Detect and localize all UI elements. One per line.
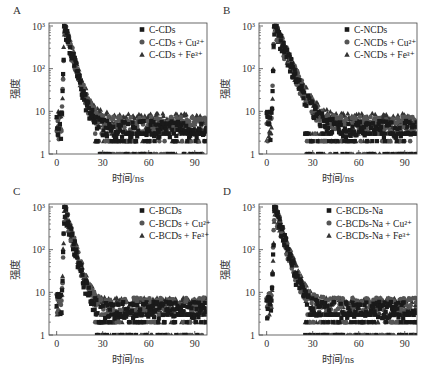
legend-entry: C-BCDs-Na bbox=[336, 206, 384, 216]
legend-entry: C-CDs + Fe³⁺ bbox=[149, 50, 203, 60]
y-axis-label: 强度 bbox=[9, 259, 21, 280]
x-tick-label: 0 bbox=[264, 157, 269, 168]
plot-d: D11010²10³0306090时间/ns强度C-BCDs-NaC-BCDs-… bbox=[210, 181, 424, 366]
y-axis-label: 强度 bbox=[219, 78, 231, 99]
y-tick-label: 1 bbox=[250, 330, 255, 341]
legend: C-BCDs-NaC-BCDs-Na + Cu²⁺C-BCDs-Na + Fe³… bbox=[326, 206, 412, 241]
y-tick-label: 10³ bbox=[32, 202, 45, 213]
panel-c: C11010²10³0306090时间/ns强度C-BCDsC-BCDs + C… bbox=[0, 181, 214, 366]
legend: C-CDsC-CDs + Cu²⁺C-CDs + Fe³⁺ bbox=[139, 25, 204, 60]
legend-entry: C-BCDs + Cu²⁺ bbox=[149, 219, 211, 229]
panel-letter: B bbox=[223, 4, 230, 16]
x-tick-label: 30 bbox=[98, 338, 108, 349]
x-tick-label: 60 bbox=[354, 157, 364, 168]
y-tick-label: 10² bbox=[242, 63, 255, 74]
y-tick-label: 10² bbox=[32, 244, 45, 255]
panel-b: B11010²10³0306090时间/ns强度C-NCDsC-NCDs + C… bbox=[210, 0, 424, 185]
plot-c: C11010²10³0306090时间/ns强度C-BCDsC-BCDs + C… bbox=[0, 181, 214, 366]
y-tick-label: 10 bbox=[245, 106, 255, 117]
x-tick-label: 30 bbox=[308, 338, 318, 349]
y-tick-label: 10³ bbox=[32, 21, 45, 32]
y-tick-label: 10³ bbox=[242, 202, 255, 213]
legend-entry: C-NCDs + Fe³⁺ bbox=[354, 50, 415, 60]
legend-entry: C-BCDs-Na + Fe³⁺ bbox=[336, 231, 410, 241]
plot-a: A11010²10³0306090时间/ns强度C-CDsC-CDs + Cu²… bbox=[0, 0, 214, 185]
y-tick-label: 1 bbox=[250, 149, 255, 160]
panel-letter: D bbox=[223, 185, 231, 197]
x-tick-label: 60 bbox=[144, 338, 154, 349]
legend-entry: C-NCDs + Cu²⁺ bbox=[354, 38, 416, 48]
legend-entry: C-BCDs bbox=[149, 206, 182, 216]
legend: C-BCDsC-BCDs + Cu²⁺C-BCDs + Fe³⁺ bbox=[139, 206, 211, 241]
x-tick-label: 60 bbox=[354, 338, 364, 349]
y-tick-label: 1 bbox=[40, 149, 45, 160]
y-axis-label: 强度 bbox=[219, 259, 231, 280]
x-tick-label: 90 bbox=[400, 338, 410, 349]
x-tick-label: 0 bbox=[54, 338, 59, 349]
y-tick-label: 10 bbox=[245, 287, 255, 298]
legend-entry: C-CDs + Cu²⁺ bbox=[149, 38, 204, 48]
panel-letter: C bbox=[13, 185, 20, 197]
y-tick-label: 10³ bbox=[242, 21, 255, 32]
y-tick-label: 10² bbox=[242, 244, 255, 255]
x-tick-label: 0 bbox=[264, 338, 269, 349]
panel-d: D11010²10³0306090时间/ns强度C-BCDs-NaC-BCDs-… bbox=[210, 181, 424, 366]
plot-b: B11010²10³0306090时间/ns强度C-NCDsC-NCDs + C… bbox=[210, 0, 424, 185]
x-axis-label: 时间/ns bbox=[112, 353, 144, 365]
y-tick-label: 1 bbox=[40, 330, 45, 341]
y-tick-label: 10² bbox=[32, 63, 45, 74]
y-tick-label: 10 bbox=[35, 106, 45, 117]
legend-entry: C-BCDs + Fe³⁺ bbox=[149, 231, 209, 241]
x-tick-label: 60 bbox=[144, 157, 154, 168]
x-tick-label: 0 bbox=[54, 157, 59, 168]
legend-entry: C-NCDs bbox=[354, 25, 388, 35]
legend-entry: C-BCDs-Na + Cu²⁺ bbox=[336, 219, 412, 229]
panel-letter: A bbox=[13, 4, 21, 16]
y-axis-label: 强度 bbox=[9, 78, 21, 99]
panel-a: A11010²10³0306090时间/ns强度C-CDsC-CDs + Cu²… bbox=[0, 0, 214, 185]
legend: C-NCDsC-NCDs + Cu²⁺C-NCDs + Fe³⁺ bbox=[344, 25, 416, 60]
x-tick-label: 30 bbox=[308, 157, 318, 168]
x-tick-label: 90 bbox=[190, 157, 200, 168]
y-tick-label: 10 bbox=[35, 287, 45, 298]
x-tick-label: 90 bbox=[400, 157, 410, 168]
legend-entry: C-CDs bbox=[149, 25, 176, 35]
x-tick-label: 90 bbox=[190, 338, 200, 349]
x-tick-label: 30 bbox=[98, 157, 108, 168]
x-axis-label: 时间/ns bbox=[322, 353, 354, 365]
